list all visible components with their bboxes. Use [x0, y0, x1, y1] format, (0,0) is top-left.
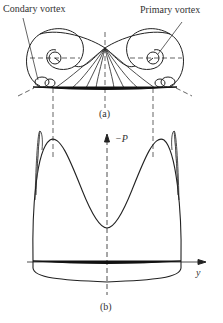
- secondary-leader: [23, 18, 38, 80]
- ground-plate-a: [33, 87, 177, 90]
- primary-vortex-label: Primary vortex: [140, 5, 200, 15]
- secondary-vortex-label: Condary vortex: [3, 4, 66, 14]
- primary-leader: [158, 22, 182, 54]
- caption-b: (b): [100, 302, 112, 312]
- axis-label-minus-p: −P: [115, 134, 128, 144]
- caption-a: (a): [99, 109, 110, 119]
- ground-plate-b: [33, 261, 181, 264]
- horizontal-axis-arrow-icon: [198, 260, 206, 265]
- vortex-diagram: [0, 0, 223, 323]
- vertical-axis-arrow-icon: [105, 134, 110, 142]
- axis-label-y: y: [196, 268, 200, 278]
